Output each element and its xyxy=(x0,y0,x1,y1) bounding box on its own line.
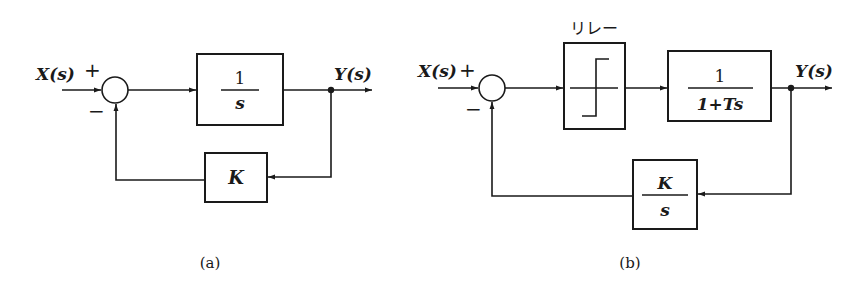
input-label-a: X(s) xyxy=(35,64,75,84)
feedback-path-to-sum-a xyxy=(116,104,205,180)
integrator-denominator-a: s xyxy=(234,93,245,113)
feedback-path-to-gain-a xyxy=(268,90,331,177)
block-diagram-canvas: X(s) + − 1 s Y(s) K (a) X(s) + − リレー 1 xyxy=(0,0,861,288)
caption-a: (a) xyxy=(200,254,221,272)
plant-denominator-b: 1+Ts xyxy=(697,94,744,114)
sum-minus-sign-a: − xyxy=(88,99,105,123)
feedback-denominator-b: s xyxy=(659,200,670,220)
input-label-b: X(s) xyxy=(417,61,457,81)
output-label-b: Y(s) xyxy=(795,61,833,81)
sum-minus-sign-b: − xyxy=(465,97,482,121)
feedback-numerator-b: K xyxy=(657,173,674,193)
diagram-b: X(s) + − リレー 1 1+Ts Y(s) K s (b) xyxy=(417,19,833,272)
gain-label-a: K xyxy=(227,167,245,188)
output-label-a: Y(s) xyxy=(334,64,372,84)
plant-numerator-b: 1 xyxy=(715,66,726,86)
integrator-numerator-a: 1 xyxy=(235,68,246,88)
relay-label-b: リレー xyxy=(570,19,618,38)
summing-junction-b xyxy=(479,75,505,101)
sum-plus-sign-a: + xyxy=(84,58,101,82)
feedback-path-to-sum-b xyxy=(492,102,633,196)
summing-junction-a xyxy=(102,77,128,103)
sum-plus-sign-b: + xyxy=(459,58,476,82)
diagram-a: X(s) + − 1 s Y(s) K (a) xyxy=(35,54,372,272)
caption-b: (b) xyxy=(619,254,640,272)
